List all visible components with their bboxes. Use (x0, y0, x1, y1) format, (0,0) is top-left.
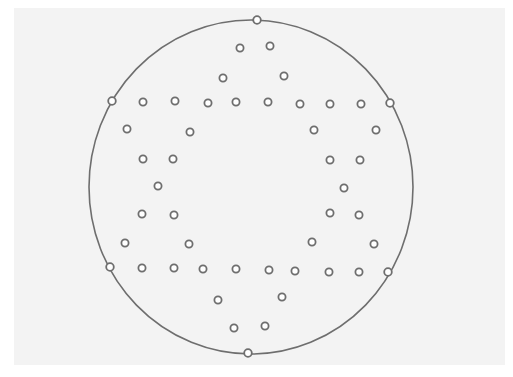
inner-node-icon (219, 74, 226, 81)
inner-node-icon (356, 156, 363, 163)
inner-node-icon (310, 126, 317, 133)
inner-node-icon (265, 266, 272, 273)
inner-node-icon (278, 293, 285, 300)
inner-node-icon (340, 184, 347, 191)
inner-node-icon (325, 268, 332, 275)
boundary-circle (89, 20, 413, 354)
inner-node-icon (214, 296, 221, 303)
inner-node-icon (230, 324, 237, 331)
inner-node-icon (123, 125, 130, 132)
boundary-node-icon (106, 263, 114, 271)
inner-node-icon (261, 322, 268, 329)
inner-node-icon (296, 100, 303, 107)
inner-node-icon (199, 265, 206, 272)
boundary-node-icon (386, 99, 394, 107)
inner-node-icon (355, 211, 362, 218)
inner-node-icon (185, 240, 192, 247)
inner-node-icon (139, 155, 146, 162)
boundary-node-icon (108, 97, 116, 105)
inner-node-icon (169, 155, 176, 162)
inner-node-icon (138, 210, 145, 217)
inner-node-icon (204, 99, 211, 106)
inner-node-icon (170, 211, 177, 218)
inner-node-icon (232, 265, 239, 272)
inner-node-icon (154, 182, 161, 189)
node-diagram (0, 0, 513, 377)
inner-node-icon (291, 267, 298, 274)
inner-node-icon (138, 264, 145, 271)
inner-node-icon (357, 100, 364, 107)
boundary-nodes (106, 16, 394, 357)
inner-node-icon (171, 97, 178, 104)
inner-node-icon (326, 156, 333, 163)
inner-node-icon (264, 98, 271, 105)
inner-node-icon (236, 44, 243, 51)
inner-node-icon (308, 238, 315, 245)
inner-node-icon (372, 126, 379, 133)
inner-node-icon (355, 268, 362, 275)
boundary-node-icon (253, 16, 261, 24)
inner-node-icon (232, 98, 239, 105)
inner-node-icon (121, 239, 128, 246)
inner-node-icon (326, 209, 333, 216)
inner-node-icon (326, 100, 333, 107)
inner-node-icon (266, 42, 273, 49)
inner-node-icon (139, 98, 146, 105)
inner-node-icon (170, 264, 177, 271)
inner-nodes (121, 42, 379, 331)
inner-node-icon (370, 240, 377, 247)
inner-node-icon (186, 128, 193, 135)
inner-node-icon (280, 72, 287, 79)
boundary-node-icon (244, 349, 252, 357)
boundary-node-icon (384, 268, 392, 276)
